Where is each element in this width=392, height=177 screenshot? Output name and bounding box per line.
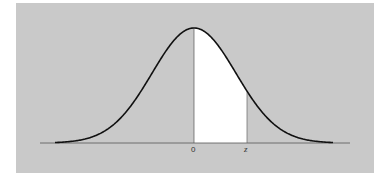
normal-curve-diagram [0, 0, 392, 177]
label-zero: 0 [191, 145, 195, 154]
shaded-area-0-to-z [194, 28, 247, 143]
label-z: z [244, 144, 248, 154]
